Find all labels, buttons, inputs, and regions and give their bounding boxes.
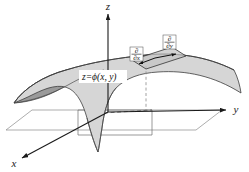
surface-equation-label: z=ϕ(x, y) <box>79 70 127 83</box>
partial-y-denominator: ∂y <box>166 42 173 50</box>
figure-container: z y x ∂ ∂x ∂ ∂y <box>0 0 249 172</box>
z-axis-label: z <box>105 0 111 12</box>
partial-x-label: ∂ ∂x <box>130 47 143 62</box>
saddle-surface-figure: z y x ∂ ∂x ∂ ∂y <box>0 0 249 172</box>
surface-sheet <box>14 54 241 152</box>
y-axis-label: y <box>233 103 239 115</box>
saddle-surface <box>14 54 241 152</box>
partial-y-label: ∂ ∂y <box>163 35 176 50</box>
xy-base-plane <box>6 110 222 135</box>
x-axis-label: x <box>11 157 17 169</box>
surface-equation-text: z=ϕ(x, y) <box>81 72 117 83</box>
base-plane-outline <box>6 110 222 130</box>
partial-x-denominator: ∂x <box>133 54 140 62</box>
